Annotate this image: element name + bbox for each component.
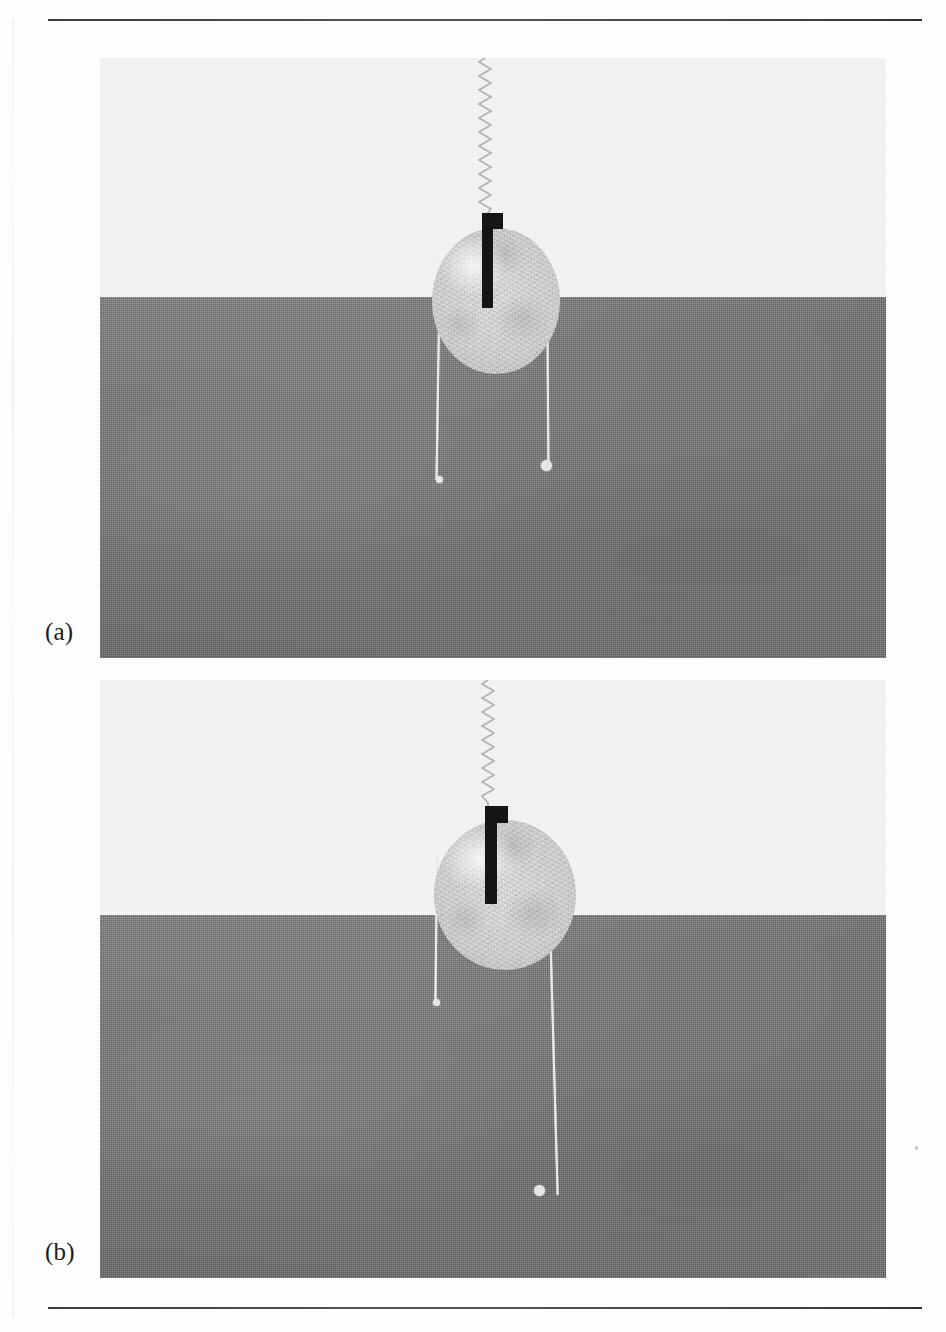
- thread-left-bead: [433, 999, 440, 1006]
- flag-stem: [482, 213, 493, 308]
- flag-stem: [485, 806, 497, 904]
- figure-panel-b: [100, 680, 886, 1278]
- flag-nub: [497, 806, 508, 823]
- thread-left-bead: [436, 476, 443, 483]
- caption-label-b: (b): [45, 1238, 75, 1266]
- black-flag-marker: [485, 806, 497, 904]
- thread-right-bead: [541, 460, 552, 471]
- scan-edge-artifact: [12, 18, 14, 1318]
- fibre-disc: [434, 820, 576, 970]
- dust-speck: [915, 1146, 918, 1150]
- thread-right-bead: [534, 1185, 545, 1196]
- black-flag-marker: [482, 213, 493, 308]
- figure-panel-a: [100, 58, 886, 658]
- coil-spring: [472, 680, 504, 808]
- top-rule: [48, 19, 922, 21]
- panel-b-ground: [100, 915, 886, 1278]
- caption-label-a: (a): [45, 618, 73, 646]
- coil-spring: [468, 58, 502, 220]
- bottom-rule: [48, 1307, 922, 1309]
- flag-nub: [493, 213, 503, 229]
- fibre-disc: [432, 228, 560, 374]
